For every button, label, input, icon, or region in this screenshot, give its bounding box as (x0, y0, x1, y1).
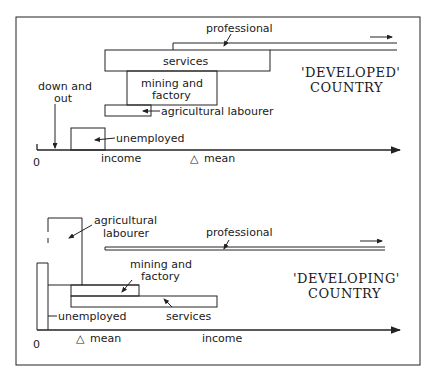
developed-title-2: COUNTRY (310, 80, 383, 95)
services-box (71, 296, 217, 307)
mean-symbol: △ (76, 332, 85, 345)
labourer-label: labourer (103, 227, 150, 240)
professional-pointer (224, 240, 229, 249)
developed-country-panel: 0 income △ mean down and out unemployed … (33, 22, 400, 169)
professional-label: professional (206, 22, 273, 35)
professional-band-top (173, 43, 397, 50)
unemployed-box (37, 263, 48, 330)
agricultural-arrow (69, 225, 92, 238)
agricultural-label: agricultural (94, 214, 157, 227)
unemployed-label: unemployed (58, 310, 126, 323)
professional-label: professional (206, 226, 273, 239)
professional-pointer (224, 34, 231, 46)
mean-symbol: △ (190, 152, 199, 165)
income-label: income (202, 332, 243, 345)
developing-title-2: COUNTRY (308, 286, 381, 301)
services-arrow (164, 299, 172, 307)
developing-title: 'DEVELOPING' (293, 271, 400, 286)
factory-label: factory (141, 270, 180, 283)
mean-label: mean (90, 332, 121, 345)
zero-label: 0 (33, 338, 40, 351)
down-and-out-label-2: out (54, 92, 73, 105)
unemployed-box (71, 128, 105, 150)
factory-label: factory (152, 89, 191, 102)
developed-title: 'DEVELOPED' (301, 65, 400, 80)
mining-arrow (122, 280, 132, 292)
mining-factory-box (71, 285, 139, 296)
developing-country-panel: 0 △ mean income unemployed agricultural … (33, 214, 400, 351)
mean-label: mean (204, 152, 235, 165)
agricultural-labourer-label: agricultural labourer (161, 105, 274, 118)
unemployed-label: unemployed (116, 132, 184, 145)
services-label: services (163, 55, 208, 68)
income-distribution-diagram: 0 income △ mean down and out unemployed … (0, 0, 432, 377)
zero-label: 0 (33, 156, 40, 169)
services-label: services (166, 310, 211, 323)
income-label: income (101, 152, 142, 165)
